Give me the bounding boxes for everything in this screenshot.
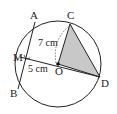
- label-c: C: [67, 9, 74, 21]
- label-o: O: [55, 65, 63, 77]
- label-m: M: [13, 51, 23, 63]
- shaded-triangle-ocd: [58, 24, 100, 77]
- geometry-diagram: A C M B O D 7 cm 5 cm: [0, 0, 117, 114]
- label-a: A: [30, 9, 38, 21]
- measurement-om: 5 cm: [28, 63, 48, 74]
- label-d: D: [101, 77, 109, 89]
- measurement-oc: 7 cm: [38, 37, 58, 48]
- label-b: B: [10, 87, 17, 99]
